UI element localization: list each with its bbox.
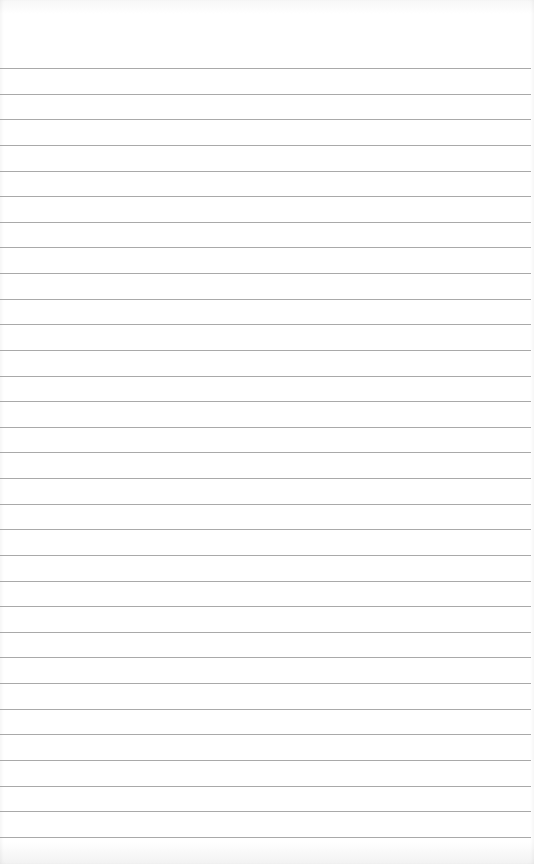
ruled-line (0, 452, 531, 453)
ruled-line (0, 734, 531, 735)
ruled-line (0, 68, 531, 69)
ruled-line (0, 760, 531, 761)
ruled-line (0, 529, 531, 530)
ruled-line (0, 376, 531, 377)
ruled-line (0, 247, 531, 248)
ruled-line (0, 171, 531, 172)
lined-paper-sheet (0, 0, 534, 864)
ruled-line (0, 786, 531, 787)
ruled-line (0, 427, 531, 428)
ruled-line (0, 504, 531, 505)
ruled-line (0, 350, 531, 351)
ruled-line (0, 299, 531, 300)
ruled-line (0, 478, 531, 479)
ruled-line (0, 581, 531, 582)
ruled-line (0, 196, 531, 197)
ruled-line (0, 555, 531, 556)
ruled-line (0, 657, 531, 658)
ruled-line (0, 145, 531, 146)
ruled-line (0, 837, 531, 838)
ruled-line (0, 606, 531, 607)
ruled-line (0, 273, 531, 274)
ruled-line (0, 683, 531, 684)
ruled-line (0, 811, 531, 812)
ruled-line (0, 401, 531, 402)
ruled-line (0, 119, 531, 120)
ruled-line (0, 632, 531, 633)
ruled-line (0, 324, 531, 325)
ruled-line (0, 94, 531, 95)
ruled-line (0, 709, 531, 710)
ruled-line (0, 222, 531, 223)
